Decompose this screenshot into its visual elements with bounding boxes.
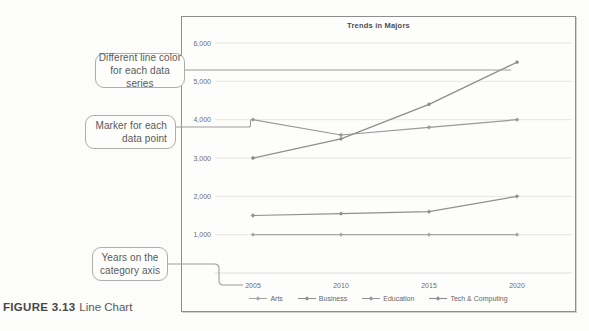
data-point-marker-tech-computing [251, 156, 255, 160]
data-point-marker-tech-computing [427, 102, 431, 106]
line-chart-plot: 1,0002,0003,0004,0005,0006,0002005201020… [182, 17, 575, 311]
callout-marker-text: Marker for each data point [95, 119, 167, 145]
legend-marker-icon [362, 295, 380, 302]
y-axis-tick-label: 5,000 [193, 78, 211, 85]
callout-line-color-text: Different line color for each data serie… [96, 51, 184, 90]
y-axis-tick-label: 1,000 [193, 231, 211, 238]
x-axis-tick-label: 2015 [421, 282, 437, 289]
callout-line-color: Different line color for each data serie… [95, 53, 185, 88]
x-axis-tick-label: 2020 [509, 282, 525, 289]
legend-label: Arts [270, 295, 282, 302]
legend-item-tech-computing: Tech & Computing [429, 295, 507, 302]
data-point-marker-education [427, 125, 431, 129]
callout-category-axis-text: Years on the category axis [100, 251, 160, 277]
figure-caption: FIGURE 3.13Line Chart [3, 301, 132, 313]
y-axis-tick-label: 3,000 [193, 155, 211, 162]
legend-marker-icon [298, 295, 316, 302]
legend-label: Business [319, 295, 347, 302]
legend-item-arts: Arts [249, 295, 282, 302]
data-point-marker-education [339, 133, 343, 137]
data-point-marker-tech-computing [515, 60, 519, 64]
y-axis-tick-label: 4,000 [193, 116, 211, 123]
data-point-marker-business [339, 211, 343, 215]
data-point-marker-business [427, 209, 431, 213]
series-line-business [253, 196, 517, 215]
data-point-marker-arts [339, 232, 343, 236]
x-axis-tick-label: 2010 [333, 282, 349, 289]
legend-item-education: Education [362, 295, 414, 302]
data-point-marker-tech-computing [339, 137, 343, 141]
data-point-marker-arts [427, 232, 431, 236]
legend-marker-icon [249, 295, 267, 302]
data-point-marker-education [251, 117, 255, 121]
series-line-tech-computing [253, 62, 517, 158]
data-point-marker-business [251, 213, 255, 217]
callout-category-axis: Years on the category axis [92, 247, 168, 281]
legend-label: Education [383, 295, 414, 302]
data-point-marker-arts [515, 232, 519, 236]
figure-caption-label: FIGURE 3.13 [3, 301, 75, 313]
legend-marker-icon [429, 295, 447, 302]
legend-label: Tech & Computing [450, 295, 507, 302]
chart-frame: Trends in Majors 1,0002,0003,0004,0005,0… [181, 16, 576, 312]
figure-caption-title: Line Chart [79, 301, 132, 313]
callout-marker: Marker for each data point [85, 115, 176, 149]
figure-page: Trends in Majors 1,0002,0003,0004,0005,0… [0, 0, 589, 331]
data-point-marker-education [515, 117, 519, 121]
y-axis-tick-label: 6,000 [193, 40, 211, 47]
chart-legend: ArtsBusinessEducationTech & Computing [182, 295, 575, 302]
x-axis-tick-label: 2005 [245, 282, 261, 289]
y-axis-tick-label: 2,000 [193, 193, 211, 200]
data-point-marker-business [515, 194, 519, 198]
legend-item-business: Business [298, 295, 347, 302]
data-point-marker-arts [251, 232, 255, 236]
